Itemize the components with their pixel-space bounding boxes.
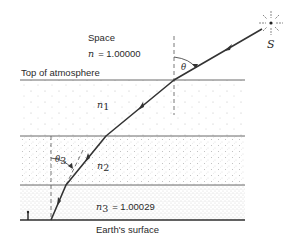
source-label: S	[267, 38, 275, 51]
earth-surface-label: Earth's surface	[96, 224, 159, 235]
n1-label: n1	[97, 94, 109, 112]
top-of-atmosphere-label: Top of atmosphere	[21, 67, 100, 78]
refraction-diagram: Space n = 1.00000 Top of atmosphere S θ …	[0, 0, 305, 241]
theta-label: θ	[181, 62, 186, 72]
n3-label: n3 = 1.00029	[96, 196, 155, 214]
space-index: n = 1.00000	[88, 43, 141, 61]
layer-2-fill	[20, 136, 245, 185]
theta3-label: θ3	[55, 148, 66, 166]
n2-label: n2	[97, 155, 109, 173]
star-source-icon	[259, 11, 283, 35]
layer-1-fill	[20, 80, 245, 136]
space-label: Space	[88, 32, 115, 43]
